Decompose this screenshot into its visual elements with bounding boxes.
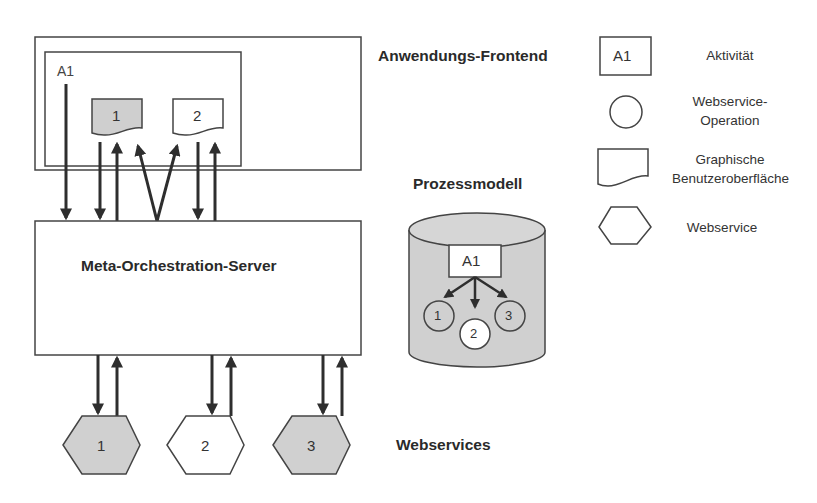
legend-webservice-label: Webservice [672,218,772,237]
frontend-title: Anwendungs-Frontend [378,47,548,65]
webservices-title: Webservices [396,436,491,454]
legend-gui-icon [598,149,648,186]
operation-2-label: 2 [470,326,477,341]
legend-webservice-icon [599,207,651,244]
legend-gui-label-1: Graphische [660,150,800,169]
frontend-activity-label: A1 [57,63,74,79]
webservice-2-label: 2 [201,437,209,454]
legend-activity-label: Aktivität [690,46,770,65]
arrow-v-left [138,146,157,221]
legend-gui-label-2: Benutzeroberfläche [648,169,813,188]
process-model-title: Prozessmodell [413,175,522,193]
operation-3-label: 3 [505,308,512,323]
arrow-v-right [157,146,177,221]
diagram-canvas [0,0,817,503]
legend-operation-label-2: Operation [672,111,788,130]
gui-2-label: 2 [193,107,201,124]
legend-activity-symbol: A1 [613,47,631,64]
legend-operation-icon [610,96,642,128]
operation-1-label: 1 [434,308,441,323]
legend-operation-label-1: Webservice- [672,92,788,111]
server-title: Meta-Orchestration-Server [81,257,277,275]
process-activity-label: A1 [462,252,480,269]
webservice-3-label: 3 [307,437,315,454]
server-box [35,221,361,355]
webservice-1-label: 1 [97,437,105,454]
gui-1-label: 1 [112,107,120,124]
